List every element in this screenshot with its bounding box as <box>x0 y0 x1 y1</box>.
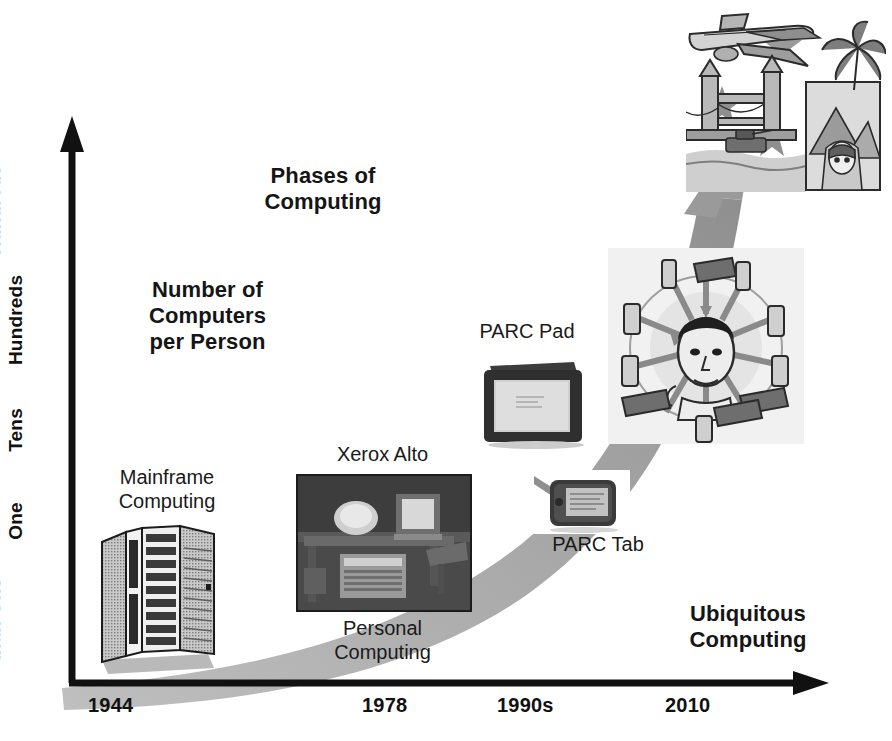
image-ubicomp-network <box>608 248 804 444</box>
image-travel-collage <box>686 8 886 192</box>
image-parc-tab <box>534 470 630 534</box>
x-tick-2010: 2010 <box>665 694 710 717</box>
image-parc-pad <box>478 352 590 450</box>
caption-personal-computing: Personal Computing <box>300 617 465 664</box>
page-title: Phases of Computing <box>218 163 428 215</box>
caption-ubiquitous-computing: Ubiquitous Computing <box>633 601 863 653</box>
y-tick-tens: Tens <box>6 375 26 485</box>
x-tick-1978: 1978 <box>362 694 407 717</box>
caption-xerox-alto: Xerox Alto <box>300 443 465 467</box>
image-mainframe <box>96 518 216 676</box>
phases-of-computing-figure: Less than One One Tens Hundreds Many Hun… <box>0 0 892 741</box>
x-tick-1944: 1944 <box>88 694 133 717</box>
y-tick-many-hundreds: Many Hundreds <box>0 130 4 290</box>
caption-parc-pad: PARC Pad <box>452 320 602 344</box>
caption-parc-tab: PARC Tab <box>518 533 678 557</box>
image-xerox-alto <box>296 474 472 612</box>
y-axis-title: Number of Computers per Person <box>100 277 315 355</box>
y-tick-less-than-one: Less than One <box>0 540 4 700</box>
caption-mainframe-computing: Mainframe Computing <box>92 466 242 513</box>
x-tick-1990s: 1990s <box>497 694 554 717</box>
y-tick-hundreds: Hundreds <box>6 250 26 390</box>
